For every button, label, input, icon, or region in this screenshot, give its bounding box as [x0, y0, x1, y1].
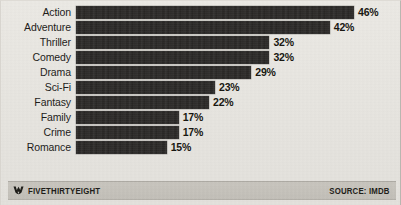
bar [76, 51, 269, 64]
bar-value-label: 42% [334, 21, 354, 34]
category-label: Fantasy [1, 96, 71, 108]
category-label: Comedy [1, 51, 71, 63]
brand-block: FIVETHIRTYEIGHT [13, 186, 107, 196]
bar-row: Thriller32% [1, 36, 401, 51]
bar-track: 22% [76, 96, 401, 109]
bar-row: Fantasy22% [1, 96, 401, 111]
bar-track: 32% [76, 36, 401, 49]
category-label: Adventure [1, 21, 71, 33]
category-label: Thriller [1, 36, 71, 48]
chart-footer: FIVETHIRTYEIGHT SOURCE: IMDB [8, 181, 396, 200]
source-label: SOURCE: IMDB [330, 186, 390, 196]
bar-row: Romance15% [1, 141, 401, 156]
bar-track: 15% [76, 141, 401, 154]
fivethirtyeight-logo-icon [13, 186, 24, 196]
category-label: Action [1, 6, 71, 18]
bar-value-label: 32% [273, 51, 293, 64]
bar [76, 96, 209, 109]
bar-track: 46% [76, 6, 401, 19]
bar-track: 17% [76, 126, 401, 139]
bar-value-label: 32% [273, 36, 293, 49]
bar-value-label: 22% [213, 96, 233, 109]
bar-row: Drama29% [1, 66, 401, 81]
bar-chart-plot: Action46%Adventure42%Thriller32%Comedy32… [1, 6, 401, 172]
bar-row: Family17% [1, 111, 401, 126]
bar-row: Comedy32% [1, 51, 401, 66]
bar-value-label: 15% [171, 141, 191, 154]
category-label: Sci-Fi [1, 81, 71, 93]
bar-value-label: 17% [183, 126, 203, 139]
category-label: Romance [1, 141, 71, 153]
bar-value-label: 17% [183, 111, 203, 124]
bar-track: 17% [76, 111, 401, 124]
bar-value-label: 29% [255, 66, 275, 79]
brand-label: FIVETHIRTYEIGHT [28, 186, 100, 196]
bar [76, 21, 330, 34]
bar [76, 126, 179, 139]
category-label: Crime [1, 126, 71, 138]
bar-row: Sci-Fi23% [1, 81, 401, 96]
bar-value-label: 23% [219, 81, 239, 94]
bar-track: 32% [76, 51, 401, 64]
bar-value-label: 46% [358, 6, 378, 19]
bar [76, 141, 167, 154]
category-label: Family [1, 111, 71, 123]
chart-figure: Action46%Adventure42%Thriller32%Comedy32… [0, 0, 401, 205]
bar [76, 81, 215, 94]
bar [76, 36, 269, 49]
category-label: Drama [1, 66, 71, 78]
bar [76, 6, 354, 19]
bar [76, 66, 251, 79]
bar-track: 29% [76, 66, 401, 79]
bar-row: Action46% [1, 6, 401, 21]
bar-row: Crime17% [1, 126, 401, 141]
bar [76, 111, 179, 124]
bar-track: 23% [76, 81, 401, 94]
bar-row: Adventure42% [1, 21, 401, 36]
bar-track: 42% [76, 21, 401, 34]
